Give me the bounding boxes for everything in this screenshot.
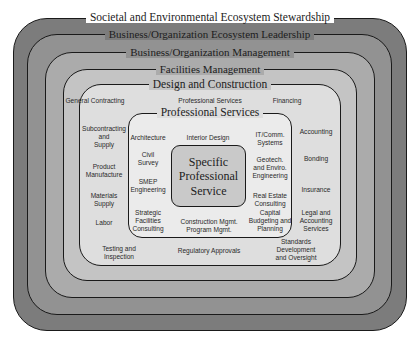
layer-societal-title: Societal and Environmental Ecosystem Ste…: [14, 12, 406, 24]
item-labor: Labor: [96, 219, 113, 227]
item-insurance: Insurance: [302, 186, 331, 194]
specific-service-title: Specific Professional Service: [172, 155, 245, 198]
item-standards-development: Standards Development and Oversight: [275, 238, 316, 261]
item-legal-accounting: Legal and Accounting Services: [300, 209, 333, 232]
item-accounting: Accounting: [300, 128, 333, 136]
layer-business-management-title: Business/Organization Management: [46, 47, 374, 58]
item-materials-supply: Materials Supply: [91, 192, 118, 208]
item-financing: Financing: [273, 97, 302, 105]
item-product-manufacture: Product Manufacture: [86, 163, 123, 179]
layer-professional-services-title: Professional Services: [129, 107, 291, 119]
item-it-comm-systems: IT/Comm. Systems: [256, 131, 285, 147]
item-subcontracting-supply: Subcontracting and Supply: [82, 125, 126, 148]
item-construction-program-mgmt: Construction Mgmt. Program Mgmt.: [180, 218, 237, 234]
layer-specific-service: Specific Professional Service: [171, 145, 246, 207]
item-capital-budgeting: Capital Budgeting and Planning: [249, 209, 292, 232]
item-general-contracting: General Contracting: [65, 97, 124, 105]
item-interior-design: Interior Design: [187, 134, 230, 142]
item-geotech-enviro: Geotech. and Enviro. Engineering: [252, 156, 287, 179]
item-bonding: Bonding: [304, 155, 328, 163]
item-real-estate-consulting: Real Estate Consulting: [253, 192, 287, 208]
layer-business-leadership-title: Business/Organization Ecosystem Leadersh…: [28, 29, 391, 40]
layer-design-construction-title: Design and Construction: [80, 79, 340, 91]
layer-facilities-title: Facilities Management: [64, 64, 356, 75]
item-architecture: Architecture: [130, 134, 165, 142]
item-testing-inspection: Testing and Inspection: [102, 245, 136, 261]
item-smep-engineering: SMEP Engineering: [130, 178, 165, 194]
item-professional-services: Professional Services: [178, 97, 241, 105]
item-strategic-facilities: Strategic Facilities Consulting: [132, 209, 163, 232]
item-civil-survey: Civil Survey: [138, 151, 159, 167]
item-regulatory-approvals: Regulatory Approvals: [178, 247, 241, 255]
